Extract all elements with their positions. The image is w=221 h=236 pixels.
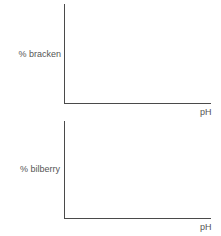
y-axis-bracken [64,4,65,104]
x-axis-bilberry [64,218,211,219]
y-axis-label-bracken: % bracken [1,49,61,59]
x-axis-bracken [64,103,211,104]
y-axis-bilberry [64,121,65,219]
x-axis-label-bilberry: pH [200,222,212,232]
y-axis-label-bilberry: % bilberry [0,164,60,174]
x-axis-label-bracken: pH [200,107,212,117]
